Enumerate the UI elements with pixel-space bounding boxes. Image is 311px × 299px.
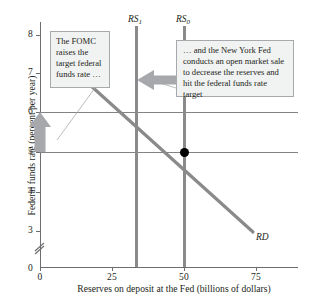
curve-rd-line	[90, 85, 253, 232]
reserves-decrease-arrow	[137, 70, 176, 90]
initial-equilibrium-dot	[180, 148, 189, 157]
figure-federal-funds-market: 8 7 6 5 4 3 0 0 25 50 75 Federal funds r…	[0, 0, 311, 299]
curve-label-rd: RD	[256, 232, 269, 242]
leader-line-left-callout	[57, 88, 95, 140]
rate-increase-arrow	[29, 112, 51, 152]
fomc-callout-box: The FOMC raises the target federal funds…	[50, 31, 110, 88]
ny-fed-callout-box: … and the New York Fed conducts an open …	[176, 40, 294, 97]
